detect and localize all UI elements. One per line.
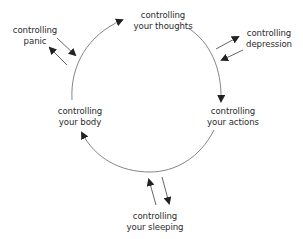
node-line1: controlling: [194, 106, 272, 117]
arrow-cycle-to-panic: [50, 48, 67, 65]
arc-thoughts-to-actions: [188, 28, 221, 101]
arrow-cycle-to-sleeping: [162, 177, 169, 203]
node-line2: your actions: [194, 117, 272, 128]
node-controlling-your-thoughts: controlling your thoughts: [123, 10, 203, 32]
arrow-to-depression: [216, 37, 238, 49]
node-line1: controlling: [123, 10, 203, 21]
node-line1: controlling: [4, 25, 66, 36]
node-line1: controlling: [241, 28, 297, 39]
node-line2: panic: [4, 36, 66, 47]
node-controlling-depression: controlling depression: [241, 28, 297, 50]
node-controlling-your-actions: controlling your actions: [194, 106, 272, 128]
node-controlling-panic: controlling panic: [4, 25, 66, 47]
arc-body-to-thoughts: [72, 20, 122, 100]
arrow-sleeping-to-cycle: [149, 180, 156, 205]
node-line2: your body: [42, 117, 118, 128]
arrow-from-depression: [222, 50, 243, 60]
node-line1: controlling: [42, 106, 118, 117]
node-controlling-your-sleeping: controlling your sleeping: [114, 211, 196, 233]
node-controlling-your-body: controlling your body: [42, 106, 118, 128]
arc-actions-to-body: [82, 130, 214, 172]
node-line2: your thoughts: [123, 21, 203, 32]
node-line1: controlling: [114, 211, 196, 222]
node-line2: your sleeping: [114, 222, 196, 233]
node-line2: depression: [241, 39, 297, 50]
